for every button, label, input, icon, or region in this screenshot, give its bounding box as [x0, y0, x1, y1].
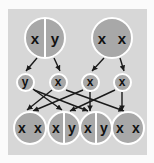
allele-pair: xx [15, 113, 45, 143]
allele-right: y [65, 121, 79, 135]
parent-node-parent-right[interactable]: xx [91, 17, 133, 59]
inheritance-arrow [26, 58, 37, 71]
parent-node-parent-left[interactable]: xy [24, 17, 66, 59]
allele-single: x [87, 76, 94, 88]
offspring-node-offspring-4[interactable]: xx [111, 111, 145, 145]
offspring-node-offspring-2[interactable]: xy [47, 111, 81, 145]
inheritance-arrow [54, 58, 60, 71]
allele-pair: xy [26, 19, 64, 57]
allele-right: x [129, 121, 143, 135]
allele-left: x [93, 31, 111, 46]
allele-right: y [97, 121, 111, 135]
diagram-canvas: xyxxyxxxxxxyxyxx [0, 0, 154, 163]
allele-right: x [31, 121, 45, 135]
offspring-node-offspring-1[interactable]: xx [13, 111, 47, 145]
gamete-node-gamete-4[interactable]: x [113, 73, 132, 92]
gamete-node-gamete-1[interactable]: y [16, 73, 35, 92]
allele-right: y [46, 31, 64, 46]
inheritance-arrow [120, 58, 124, 71]
inheritance-arrow [92, 58, 104, 71]
allele-single: y [22, 76, 29, 88]
allele-single: x [119, 76, 126, 88]
allele-left: x [26, 31, 44, 46]
allele-pair: xy [49, 113, 79, 143]
allele-left: x [49, 121, 63, 135]
offspring-node-offspring-3[interactable]: xy [79, 111, 113, 145]
allele-pair: xy [81, 113, 111, 143]
allele-pair: xx [113, 113, 143, 143]
allele-left: x [15, 121, 29, 135]
inheritance-arrows [26, 58, 124, 111]
allele-left: x [81, 121, 95, 135]
allele-left: x [113, 121, 127, 135]
allele-single: x [55, 76, 62, 88]
allele-pair: xx [93, 19, 131, 57]
allele-right: x [113, 31, 131, 46]
gamete-node-gamete-3[interactable]: x [81, 73, 100, 92]
gamete-node-gamete-2[interactable]: x [49, 73, 68, 92]
